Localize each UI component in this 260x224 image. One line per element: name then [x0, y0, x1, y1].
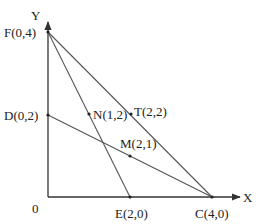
point-F: [46, 30, 49, 33]
label-M: M(2,1): [120, 136, 156, 151]
point-D: [46, 113, 49, 116]
point-M: [128, 154, 131, 157]
origin-label: 0: [32, 201, 39, 216]
label-F: F(0,4): [4, 25, 36, 40]
point-E: [128, 195, 131, 198]
x-axis-label: X: [243, 190, 253, 205]
point-N: [87, 112, 90, 115]
label-N: N(1,2): [93, 107, 127, 122]
point-T: [129, 112, 132, 115]
label-D: D(0,2): [4, 108, 38, 123]
label-C: C(4,0): [195, 206, 229, 221]
y-axis-label: Y: [31, 8, 41, 23]
point-C: [210, 195, 213, 198]
label-E: E(2,0): [115, 206, 148, 221]
label-T: T(2,2): [134, 104, 167, 119]
coordinate-diagram: Y X 0 F(0,4) D(0,2) N(1,2) T(2,2) M(2,1)…: [0, 0, 260, 224]
